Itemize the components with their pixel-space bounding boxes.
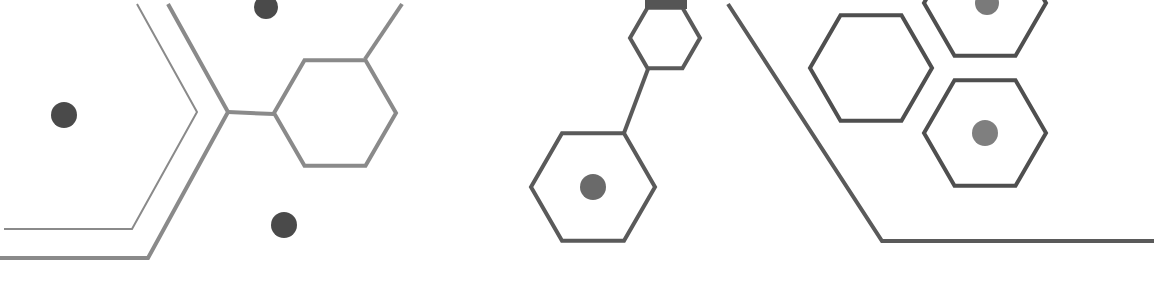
decorative-hexagon-graphic [0,0,1154,282]
hexagon-pattern-illustration [0,0,1154,282]
dot-mid-hex-icon [580,174,606,200]
right-frame-line [728,4,1154,241]
dot-bottom-icon [271,212,297,238]
dot-left-icon [51,102,77,128]
hex-right-upper-left-icon [810,15,932,121]
dot-right-hex-icon [972,120,998,146]
connector-left-up-line [365,4,402,59]
connector-mid-line [624,69,648,133]
cap-mid-top [645,0,687,9]
hex-left-icon [274,60,396,166]
hex-mid-small-icon [630,8,700,69]
dot-right-top-icon [975,0,999,15]
bracket-outer-line [0,4,228,258]
bracket-inner-line [4,4,197,229]
dot-top-icon [254,0,278,19]
connector-left-line [228,112,274,114]
